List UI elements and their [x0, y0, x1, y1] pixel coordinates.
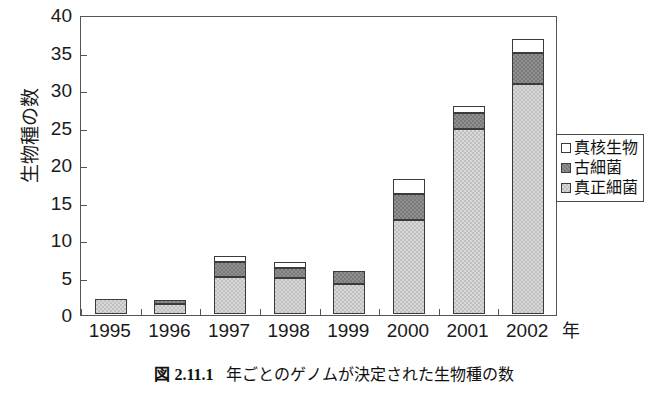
bar-1996 [154, 300, 186, 314]
legend-item-archaea: 古細菌 [561, 158, 638, 178]
y-axis-tick-labels: 0510152025303540 [28, 0, 72, 340]
x-tick-label-1995: 1995 [82, 320, 138, 342]
x-tick-mark [200, 309, 201, 315]
x-tick-mark [81, 309, 82, 315]
x-axis-tick-labels: 19951996199719981999200020012002 [80, 320, 557, 346]
bar-2002 [512, 39, 544, 314]
bar-segment-archaea [393, 194, 425, 220]
bar-segment-archaea [453, 113, 485, 129]
bar-segment-eukaryote [512, 39, 544, 53]
bar-1995 [95, 299, 127, 314]
y-tick-mark [81, 242, 87, 243]
y-tick-label: 20 [28, 156, 72, 175]
legend-swatch-archaea [561, 163, 571, 173]
bar-segment-bacteria [154, 304, 186, 314]
y-tick-label: 10 [28, 231, 72, 250]
figure-caption: 図 2.11.1年ごとのゲノムが決定された生物種の数 [0, 364, 668, 386]
bar-segment-bacteria [512, 84, 544, 314]
bar-segment-eukaryote [453, 106, 485, 114]
y-tick-label: 40 [28, 6, 72, 25]
x-axis-unit-label: 年 [562, 320, 580, 342]
plot-area [80, 16, 557, 316]
legend-item-bacteria: 真正細菌 [561, 178, 638, 198]
x-tick-label-2002: 2002 [499, 320, 555, 342]
x-tick-mark [260, 309, 261, 315]
bar-segment-bacteria [214, 277, 246, 315]
x-tick-label-1998: 1998 [261, 320, 317, 342]
x-tick-mark [439, 309, 440, 315]
x-tick-label-1996: 1996 [141, 320, 197, 342]
bar-segment-archaea [512, 53, 544, 84]
bar-2001 [453, 106, 485, 315]
caption-text: 年ごとのゲノムが決定された生物種の数 [226, 365, 514, 384]
y-tick-mark [81, 92, 87, 93]
y-tick-label: 25 [28, 119, 72, 138]
y-tick-label: 0 [28, 306, 72, 325]
y-tick-label: 5 [28, 269, 72, 288]
y-tick-mark [81, 205, 87, 206]
legend-label: 真正細菌 [574, 180, 638, 196]
bar-segment-bacteria [274, 278, 306, 314]
x-tick-mark [320, 309, 321, 315]
bar-segment-bacteria [95, 299, 127, 314]
x-tick-mark [141, 309, 142, 315]
legend-label: 真核生物 [574, 140, 638, 156]
legend-swatch-bacteria [561, 183, 571, 193]
figure-genome-species-chart: 生物種の数 0510152025303540 19951996199719981… [0, 0, 668, 395]
y-tick-mark [81, 130, 87, 131]
x-tick-label-2001: 2001 [440, 320, 496, 342]
bar-2000 [393, 179, 425, 314]
bar-1998 [274, 262, 306, 315]
bar-segment-eukaryote [393, 179, 425, 194]
x-tick-label-2000: 2000 [380, 320, 436, 342]
legend-item-eukaryote: 真核生物 [561, 138, 638, 158]
bar-1999 [333, 271, 365, 315]
bar-segment-archaea [274, 268, 306, 278]
bar-segment-archaea [214, 262, 246, 277]
bar-segment-eukaryote [214, 256, 246, 261]
y-tick-label: 30 [28, 81, 72, 100]
x-tick-mark [498, 309, 499, 315]
bar-1997 [214, 256, 246, 314]
y-tick-label: 35 [28, 44, 72, 63]
caption-number: 図 2.11.1 [154, 366, 213, 383]
bar-segment-bacteria [453, 129, 485, 314]
x-tick-label-1999: 1999 [320, 320, 376, 342]
bar-segment-archaea [154, 300, 186, 305]
legend-label: 古細菌 [574, 160, 622, 176]
x-tick-label-1997: 1997 [201, 320, 257, 342]
y-tick-mark [81, 55, 87, 56]
bar-segment-bacteria [333, 284, 365, 314]
bar-segment-archaea [333, 271, 365, 285]
chart-legend: 真核生物古細菌真正細菌 [556, 134, 644, 202]
bar-segment-eukaryote [274, 262, 306, 269]
y-tick-mark [81, 167, 87, 168]
bar-segment-bacteria [393, 220, 425, 314]
y-tick-mark [81, 280, 87, 281]
x-tick-mark [379, 309, 380, 315]
y-tick-label: 15 [28, 194, 72, 213]
legend-swatch-eukaryote [561, 143, 571, 153]
